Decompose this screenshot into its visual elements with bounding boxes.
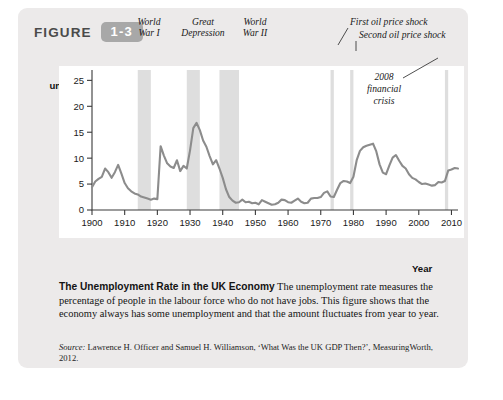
x-axis-title: Year <box>412 263 432 274</box>
annotation-first-oil-shock: First oil price shock <box>349 16 428 27</box>
x-tick-label: 1980 <box>343 217 364 228</box>
x-tick-label: 1990 <box>376 217 397 228</box>
x-tick-label: 1930 <box>179 217 200 228</box>
y-tick-label: 15 <box>73 127 84 138</box>
recession-band <box>445 70 448 210</box>
y-tick-labels-group: 0510152025 <box>73 75 84 216</box>
chart-plot-card: 0510152025 19001910192019301940195019601… <box>59 66 464 238</box>
figure-panel: FIGURE 1-3 Per cent unemployed Year 0510… <box>18 8 468 368</box>
figure-source: Source: Lawrence H. Officer and Samuel H… <box>59 342 452 364</box>
x-tick-label: 1970 <box>310 217 331 228</box>
y-tick-label: 20 <box>73 101 84 112</box>
x-tick-label: 1960 <box>278 217 299 228</box>
x-tick-label: 2010 <box>441 217 462 228</box>
annotation-second-oil-shock: Second oil price shock <box>359 29 446 40</box>
annotation-depression-line2: Depression <box>180 27 225 38</box>
unemployment-line-chart: 0510152025 19001910192019301940195019601… <box>59 66 464 238</box>
annotation-ww2-line2: War II <box>243 27 268 38</box>
y-tick-label: 5 <box>79 178 84 189</box>
x-tick-label: 1920 <box>147 217 168 228</box>
figure-header: FIGURE 1-3 <box>34 22 143 42</box>
y-tick-label: 10 <box>73 153 84 164</box>
figure-caption: The Unemployment Rate in the UK Economy … <box>59 280 452 321</box>
x-tick-label: 1950 <box>245 217 266 228</box>
leader-line-first-oil-shock <box>338 28 348 45</box>
recession-band <box>331 70 334 210</box>
source-label: Source: <box>59 342 85 352</box>
source-text: Lawrence H. Officer and Samuel H. Willia… <box>59 342 433 363</box>
recession-bands-group <box>138 70 448 210</box>
x-tick-labels-group: 1900191019201930194019501960197019801990… <box>81 217 462 228</box>
figure-label: FIGURE <box>34 25 92 40</box>
recession-band <box>219 70 239 210</box>
recession-band <box>350 70 353 210</box>
x-tick-label: 2000 <box>408 217 429 228</box>
y-tick-label: 25 <box>73 75 84 86</box>
figure-number-badge: 1-3 <box>101 22 143 42</box>
annotation-depression-line1: Great <box>192 16 214 27</box>
caption-title: The Unemployment Rate in the UK Economy <box>59 281 275 292</box>
recession-band <box>187 70 200 210</box>
recession-band <box>138 70 151 210</box>
x-tick-label: 1910 <box>114 217 135 228</box>
x-tick-label: 1940 <box>212 217 233 228</box>
x-tick-label: 1900 <box>81 217 102 228</box>
y-tick-label: 0 <box>79 204 84 215</box>
annotation-ww2-line1: World <box>243 16 266 27</box>
